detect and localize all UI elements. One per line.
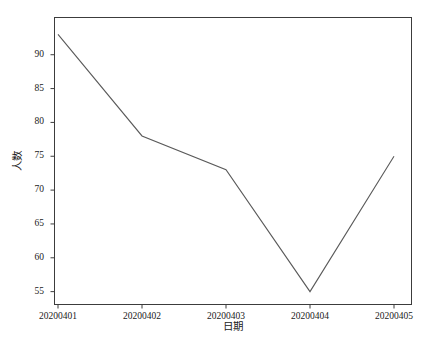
y-tick-label-80: 80 [26, 118, 44, 128]
y-tick-label-70: 70 [26, 185, 44, 195]
data-series-line [58, 34, 394, 291]
x-tick-label-20200404: 20200404 [291, 312, 329, 322]
y-tick-label-65: 65 [26, 219, 44, 229]
plot-frame [55, 18, 412, 305]
x-tick-label-20200402: 20200402 [123, 312, 161, 322]
x-tick-label-20200401: 20200401 [39, 312, 77, 322]
y-tick-label-60: 60 [26, 253, 44, 263]
y-tick-label-90: 90 [26, 50, 44, 60]
x-tick-label-20200405: 20200405 [375, 312, 413, 322]
y-axis-title: 人数 [13, 151, 24, 171]
plot-canvas [0, 0, 433, 349]
y-tick-label-85: 85 [26, 84, 44, 94]
line-chart: 90 85 80 75 70 65 60 55 20200401 2020040… [0, 0, 433, 349]
x-axis-tick-marks [58, 305, 394, 309]
y-tick-label-75: 75 [26, 152, 44, 162]
y-axis-tick-marks [51, 55, 55, 292]
y-tick-label-55: 55 [26, 287, 44, 297]
x-axis-title: 日期 [223, 322, 243, 333]
